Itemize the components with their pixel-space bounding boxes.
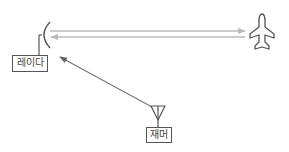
jammer-label: 재머 [146, 127, 172, 143]
diagram-canvas [0, 0, 289, 152]
airplane-icon [250, 14, 274, 49]
jamming-signal-arrow [60, 57, 152, 107]
antenna-icon [151, 106, 165, 127]
radar-label: 레이다 [12, 55, 48, 72]
radar-dish-icon [39, 22, 50, 55]
